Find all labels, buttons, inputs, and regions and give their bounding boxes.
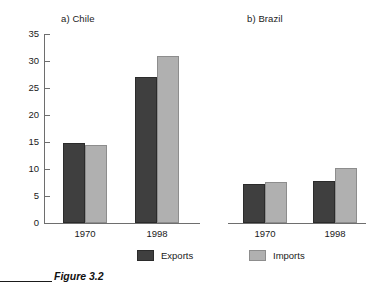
x-axis-line-brazil xyxy=(228,223,366,224)
x-label-brazil-1970: 1970 xyxy=(243,228,287,239)
x-label-chile-1998: 1998 xyxy=(135,228,179,239)
y-tick-mark xyxy=(45,142,50,143)
bar-chile-1998-exports xyxy=(135,77,157,223)
bar-brazil-1970-imports xyxy=(265,182,287,223)
figure-caption-row: Figure 3.2 xyxy=(0,270,373,284)
bar-chile-1970-imports xyxy=(85,145,107,223)
y-tick-label-20: 20 xyxy=(14,109,44,120)
bar-brazil-1998-imports xyxy=(335,168,357,223)
legend-label-imports: Imports xyxy=(273,250,305,261)
y-tick-label-10: 10 xyxy=(14,163,44,174)
bar-chile-1998-imports xyxy=(157,56,179,223)
bar-brazil-1998-exports xyxy=(313,181,335,223)
legend-entry-imports: Imports xyxy=(249,250,305,261)
y-tick-mark xyxy=(45,61,50,62)
y-tick-mark xyxy=(45,196,50,197)
figure-caption: Figure 3.2 xyxy=(54,270,104,282)
y-tick-mark xyxy=(45,115,50,116)
y-tick-label-0: 0 xyxy=(14,217,44,228)
legend-entry-exports: Exports xyxy=(137,250,193,261)
legend-swatch-imports xyxy=(249,250,266,261)
y-tick-label-25: 25 xyxy=(14,82,44,93)
x-label-brazil-1998: 1998 xyxy=(313,228,357,239)
y-tick-label-35: 35 xyxy=(14,28,44,39)
x-label-chile-1970: 1970 xyxy=(63,228,107,239)
figure-container: a) Chile b) Brazil 35 30 25 20 15 10 5 0 xyxy=(0,0,373,284)
legend-label-exports: Exports xyxy=(161,250,193,261)
y-tick-label-30: 30 xyxy=(14,55,44,66)
y-tick-label-5: 5 xyxy=(14,190,44,201)
bar-brazil-1970-exports xyxy=(243,184,265,223)
caption-rule xyxy=(0,281,52,282)
legend-swatch-exports xyxy=(137,250,154,261)
y-tick-mark xyxy=(45,88,50,89)
x-axis-line-chile xyxy=(44,223,200,224)
bar-chile-1970-exports xyxy=(63,143,85,223)
y-tick-label-15: 15 xyxy=(14,136,44,147)
chart-legend: Exports Imports xyxy=(0,250,373,268)
plot-area: 35 30 25 20 15 10 5 0 1970 xyxy=(0,0,373,240)
y-tick-mark xyxy=(45,169,50,170)
y-tick-mark xyxy=(45,34,50,35)
